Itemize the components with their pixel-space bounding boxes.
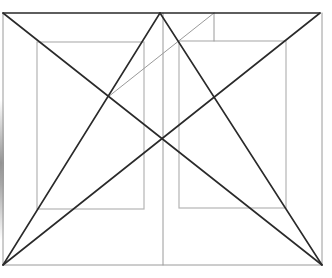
light-diagonal-line [108, 13, 214, 97]
geometric-construction-diagram [0, 0, 332, 278]
bottomleft-to-apex-line [3, 13, 160, 265]
inner-rectangles [37, 41, 286, 209]
bottomright-to-apex-line [160, 13, 322, 265]
